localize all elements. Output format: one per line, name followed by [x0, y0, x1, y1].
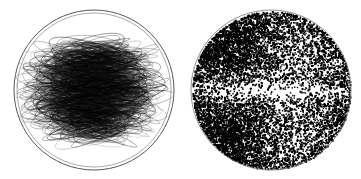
- trajectory-sphere-plot: [0, 0, 180, 179]
- scatter-sphere-plot: [180, 0, 361, 179]
- scatter-sphere-panel: [180, 0, 361, 179]
- trajectory-sphere-panel: [0, 0, 180, 179]
